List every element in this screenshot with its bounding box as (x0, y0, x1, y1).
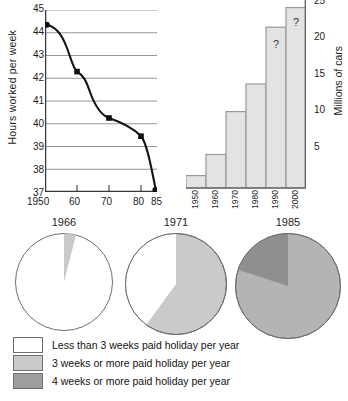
y-tick-40: 40 (33, 119, 44, 129)
legend: Less than 3 weeks paid holiday per year … (13, 336, 313, 390)
bar-x-tick-1970: 1970 (231, 190, 240, 209)
line-chart-x-tick-labels: 1950 60 70 80 85 (25, 196, 170, 210)
legend-label-4-weeks-or-more: 4 weeks or more paid holiday per year (52, 375, 230, 387)
line-chart-y-axis-label: Hours worked per week (6, 30, 18, 145)
pie-title-1966: 1966 (14, 216, 114, 228)
legend-swatch-light-gray (13, 355, 43, 371)
bar-x-tick-1950: 1950 (191, 190, 200, 209)
bar-y-tick-15: 15 (314, 69, 325, 79)
line-series-path (47, 25, 157, 191)
y-tick-38: 38 (33, 165, 44, 175)
pie-1985-graphic (234, 232, 342, 340)
y-tick-44: 44 (33, 27, 44, 37)
bar-y-tick-25: 25 (314, 0, 325, 6)
gridlines (45, 10, 157, 169)
x-tick-70: 70 (101, 196, 112, 207)
legend-item-less-than-3-weeks: Less than 3 weeks paid holiday per year (13, 336, 313, 354)
pie-chart-1985: 1985 (234, 232, 342, 340)
pie-1966-graphic (14, 232, 114, 332)
bar-1990 (266, 27, 286, 188)
bar-chart-plot-area: ? ? (186, 0, 306, 190)
bar-1970 (226, 112, 246, 188)
bar-1980 (246, 84, 266, 188)
line-data-markers (45, 22, 157, 192)
bar-x-tick-2000: 2000 (291, 190, 300, 209)
bar-chart: ? ? 1950 1960 1970 1980 1990 2000 25 20 … (178, 0, 348, 212)
bar-annotation-1990: ? (273, 38, 279, 50)
y-tick-42: 42 (33, 73, 44, 83)
bar-annotation-2000: ? (293, 16, 299, 28)
legend-swatch-mid-gray (13, 373, 43, 389)
y-tick-41: 41 (33, 96, 44, 106)
y-tick-43: 43 (33, 50, 44, 60)
x-tick-1950: 1950 (27, 196, 49, 207)
pie-chart-1971: 1971 (124, 232, 228, 336)
bar-y-tick-10: 10 (314, 105, 325, 115)
line-chart: Hours worked per week 45 44 43 42 41 40 … (0, 0, 178, 212)
line-chart-y-tick-labels: 45 44 43 42 41 40 39 38 37 (22, 4, 44, 198)
data-point-1950 (45, 22, 50, 28)
bar-chart-x-tick-labels: 1950 1960 1970 1980 1990 2000 (186, 190, 308, 214)
pie-title-1971: 1971 (124, 216, 228, 228)
pie-1971-graphic (124, 232, 228, 336)
data-point-1980 (138, 133, 144, 139)
data-point-1970 (106, 115, 112, 121)
bar-x-tick-1980: 1980 (251, 190, 260, 209)
bar-chart-y-axis-label: Millions of cars (332, 46, 344, 115)
bar-1960 (206, 155, 226, 189)
x-tick-60: 60 (69, 196, 80, 207)
bar-y-tick-20: 20 (314, 32, 325, 42)
legend-swatch-white (13, 337, 43, 353)
data-point-1985 (152, 187, 157, 192)
bar-x-tick-1960: 1960 (211, 190, 220, 209)
pie-title-1985: 1985 (234, 216, 342, 228)
legend-label-less-than-3-weeks: Less than 3 weeks paid holiday per year (52, 339, 239, 351)
bar-y-tick-5: 5 (314, 142, 320, 152)
x-tick-80: 80 (133, 196, 144, 207)
legend-item-4-weeks-or-more: 4 weeks or more paid holiday per year (13, 372, 313, 390)
bar-x-tick-1990: 1990 (271, 190, 280, 209)
y-tick-39: 39 (33, 142, 44, 152)
x-tick-85: 85 (151, 196, 162, 207)
bar-1950 (186, 176, 206, 188)
legend-item-3-weeks-or-more: 3 weeks or more paid holiday per year (13, 354, 313, 372)
line-chart-plot-area (45, 10, 157, 192)
y-tick-45: 45 (33, 4, 44, 14)
bar-series (186, 8, 306, 188)
legend-label-3-weeks-or-more: 3 weeks or more paid holiday per year (52, 357, 230, 369)
pie-chart-1966: 1966 (14, 232, 114, 332)
figure-page: Hours worked per week 45 44 43 42 41 40 … (0, 0, 348, 401)
data-point-1960 (74, 69, 80, 75)
bar-2000 (286, 8, 306, 188)
x-tick-marks (77, 185, 141, 191)
pie-chart-group: 1966 1971 1985 (0, 216, 348, 334)
